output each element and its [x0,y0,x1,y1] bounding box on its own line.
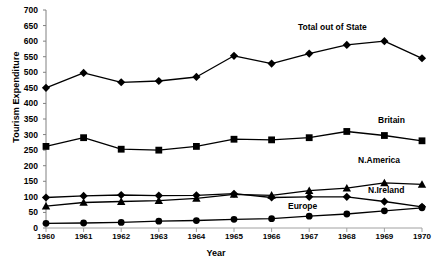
series-label-total-out-of-state: Total out of State [298,22,367,32]
series-0 [42,37,426,92]
series-label-n-ireland: N.Ireland [368,185,404,195]
series-label-britain: Britain [378,115,405,125]
series-label-n-america: N.America [358,155,400,165]
series-4 [43,204,426,226]
series-1 [43,128,426,153]
plot-area [0,0,432,269]
series-label-europe: Europe [288,201,317,211]
chart-container: Tourism Expenditure Year 050100150200250… [0,0,432,269]
